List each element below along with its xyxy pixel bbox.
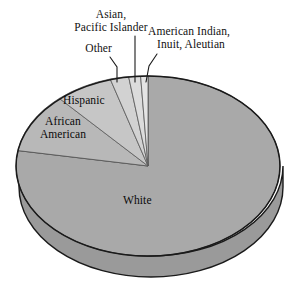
pie-label-american-indian-inuit-aleutian: American Indian, Inuit, Aleutian — [148, 25, 288, 50]
pie-label-asian-pacific-islander-line2: Pacific Islander — [63, 21, 159, 34]
pie-slices-group — [16, 76, 280, 256]
pie-label-asian-pacific-islander-line1: Asian, — [63, 8, 159, 21]
pie-label-african-american-line1: African — [27, 115, 99, 128]
pie-label-american-indian-line2: Inuit, Aleutian — [148, 38, 288, 51]
pie-chart-figure: Asian, Pacific Islander Other American I… — [0, 0, 295, 299]
pie-label-other: Other — [60, 42, 112, 55]
pie-label-american-indian-line1: American Indian, — [148, 25, 288, 38]
pie-label-asian-pacific-islander: Asian, Pacific Islander — [63, 8, 159, 33]
pie-label-white: White — [123, 194, 152, 207]
pie-label-hispanic: Hispanic — [63, 94, 105, 107]
pie-label-african-american-line2: American — [27, 128, 99, 141]
pie-label-african-american: African American — [27, 115, 99, 140]
